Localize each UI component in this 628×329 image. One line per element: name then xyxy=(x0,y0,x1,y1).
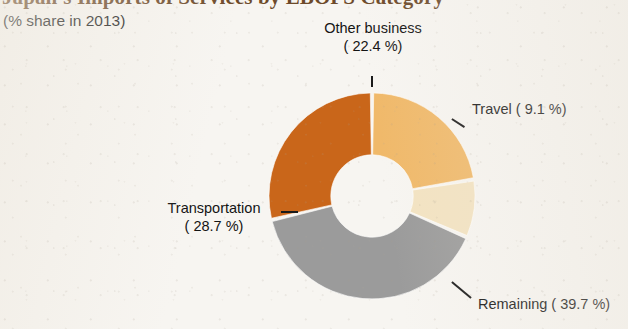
slice-label-other-business-name: Other business xyxy=(308,20,438,38)
slice-label-other-business: Other business ( 22.4 %) xyxy=(308,20,438,55)
leader-line-other-business xyxy=(371,76,373,87)
donut-chart-svg xyxy=(268,92,476,300)
leader-line-transportation xyxy=(281,211,298,213)
donut-slice-transportation xyxy=(269,93,371,218)
chart-subtitle: (% share in 2013) xyxy=(3,12,125,30)
slice-label-remaining: Remaining ( 39.7 %) xyxy=(478,296,610,314)
donut-slice-other-business xyxy=(373,93,474,189)
slice-label-travel-name: Travel xyxy=(472,101,512,117)
slice-label-transportation-name: Transportation xyxy=(148,200,280,218)
slice-label-other-business-value: ( 22.4 %) xyxy=(308,38,438,56)
slice-label-travel-value: ( 9.1 %) xyxy=(516,101,567,117)
page-title: Japan's Imports of Services by EBOPS Cat… xyxy=(2,0,444,10)
slice-label-travel: Travel ( 9.1 %) xyxy=(472,101,567,119)
donut-slice-group xyxy=(269,93,475,299)
slice-label-remaining-value: ( 39.7 %) xyxy=(551,296,610,312)
slice-label-transportation-value: ( 28.7 %) xyxy=(148,218,280,236)
donut-chart xyxy=(268,92,476,300)
slice-label-transportation: Transportation ( 28.7 %) xyxy=(148,200,280,235)
slice-label-remaining-name: Remaining xyxy=(478,296,547,312)
